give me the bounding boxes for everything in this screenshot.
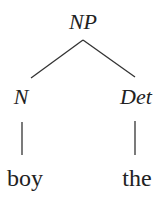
leaf-the: the [122,166,151,190]
node-np: NP [69,11,97,33]
node-n: N [14,86,29,108]
syntax-tree: NP N Det boy the [0,0,163,202]
edge-np-n [31,40,83,78]
edge-np-det [83,40,135,77]
leaf-boy: boy [7,166,43,190]
node-det: Det [120,86,152,108]
